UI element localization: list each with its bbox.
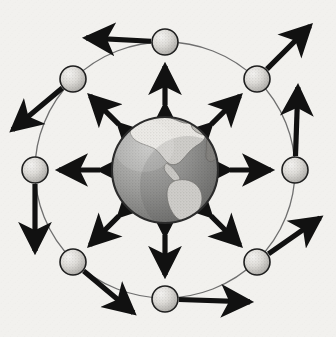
outward-arrow-node-s bbox=[179, 299, 250, 301]
satellite-node-north bbox=[152, 29, 178, 55]
satellite-node-south bbox=[152, 286, 178, 312]
satellite-node-west bbox=[22, 157, 48, 183]
network-diagram-canvas bbox=[0, 0, 336, 337]
global-network-figure bbox=[0, 0, 336, 337]
satellite-node-northeast bbox=[244, 66, 270, 92]
satellite-node-southwest bbox=[60, 249, 86, 275]
satellite-node-northwest bbox=[60, 66, 86, 92]
satellite-node-east bbox=[282, 157, 308, 183]
satellite-node-southeast bbox=[244, 249, 270, 275]
outward-arrow-node-e bbox=[295, 87, 297, 156]
outward-arrow-node-n bbox=[86, 38, 151, 41]
